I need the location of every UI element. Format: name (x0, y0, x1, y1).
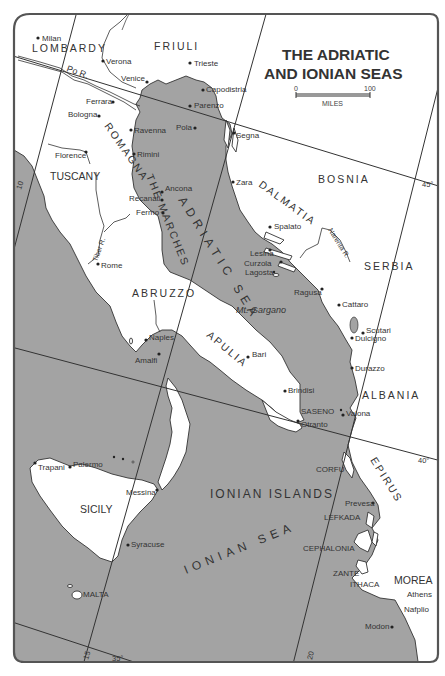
city-syracuse: Syracuse (126, 540, 164, 549)
city-ragusa: Ragusa (294, 287, 324, 297)
city-bologna: Bologna (68, 110, 101, 119)
svg-text:Parenzo: Parenzo (194, 101, 224, 110)
city-prevesa: Prevesa (345, 499, 375, 508)
city-otranto: Otranto (296, 419, 328, 429)
aeolian-island (132, 461, 134, 463)
svg-text:Trapani: Trapani (38, 463, 65, 472)
region-friuli: FRIULI (154, 40, 199, 52)
svg-text:Segna: Segna (236, 131, 260, 140)
svg-text:Trieste: Trieste (194, 59, 219, 68)
city-ancona: Ancona (160, 184, 192, 194)
svg-text:Pola: Pola (176, 123, 193, 132)
sea-ionian-islands: IONIAN ISLANDS (210, 487, 334, 501)
city-parenzo: Parenzo (188, 101, 224, 110)
svg-text:Ferrara: Ferrara (86, 97, 113, 106)
svg-text:CEPHALONIA: CEPHALONIA (303, 544, 355, 553)
adriatic-ionian-map: THE ADRIATIC AND IONIAN SEAS 0 100 MILES… (0, 0, 445, 676)
map-title-line2: AND IONIAN SEAS (264, 65, 403, 82)
island-zante-label: ZANTE (333, 569, 359, 578)
city-rimini: Rimini (132, 150, 159, 159)
city-lesina: Lesina (250, 248, 274, 258)
label-lat-40: 40° (418, 456, 429, 465)
svg-text:ITHACA: ITHACA (350, 580, 380, 589)
svg-text:Valona: Valona (346, 409, 371, 418)
svg-text:Syracuse: Syracuse (131, 540, 165, 549)
svg-text:LEFKADA: LEFKADA (324, 513, 361, 522)
region-lombardy: LOMBARDY (32, 42, 107, 54)
city-recanati: Recanati (129, 194, 164, 203)
svg-text:SASENO: SASENO (301, 407, 334, 416)
svg-text:MALTA: MALTA (83, 590, 109, 599)
svg-text:Verona: Verona (106, 57, 132, 66)
svg-text:Capodistria: Capodistria (206, 85, 247, 94)
svg-text:Venice: Venice (121, 74, 146, 83)
label-lat-45: 45° (422, 180, 433, 189)
label-lat-35: 35° (112, 654, 123, 663)
svg-text:Dulcigno: Dulcigno (355, 334, 387, 343)
svg-text:Naples: Naples (149, 333, 174, 342)
city-durazzo: Durazzo (350, 364, 385, 373)
city-messina: Messina (126, 488, 159, 497)
svg-text:Amalfi: Amalfi (135, 356, 157, 365)
city-valona: Valona (341, 409, 370, 418)
region-sicily: SICILY (80, 503, 112, 515)
city-spalato: Spalato (268, 222, 301, 231)
region-albania: ALBANIA (362, 389, 420, 401)
city-palermo: Palermo (68, 460, 103, 469)
island-ithaca-label: ITHACA (350, 580, 380, 589)
svg-text:Ancona: Ancona (165, 184, 193, 193)
island-malta-label: MALTA (83, 590, 109, 599)
svg-text:CORFU: CORFU (316, 465, 345, 474)
svg-text:Bari: Bari (252, 350, 266, 359)
map-title-line1: THE ADRIATIC (282, 46, 390, 63)
city-verona: Verona (101, 57, 132, 66)
svg-text:ZANTE: ZANTE (333, 569, 359, 578)
svg-text:Spalato: Spalato (274, 222, 302, 231)
svg-text:Milan: Milan (42, 34, 61, 43)
city-florence: Florence (55, 150, 88, 160)
svg-text:Durazzo: Durazzo (355, 364, 385, 373)
label-mt-gargano: Mt. Gargano (236, 305, 286, 315)
svg-text:Fermo: Fermo (136, 208, 160, 217)
region-abruzzo: ABRUZZO (132, 287, 196, 299)
region-serbia: SERBIA (364, 260, 415, 272)
city-segna: Segna (232, 131, 259, 140)
island-lagosta (273, 274, 279, 277)
svg-text:Lagosta: Lagosta (245, 268, 274, 277)
svg-text:Prevesa: Prevesa (345, 499, 375, 508)
svg-text:Bologna: Bologna (68, 110, 98, 119)
svg-text:Otranto: Otranto (301, 420, 328, 429)
svg-text:Modon: Modon (365, 622, 389, 631)
aeolian-island (113, 456, 115, 458)
scale-unit: MILES (322, 100, 343, 107)
svg-text:Ravenna: Ravenna (134, 126, 167, 135)
svg-text:Brindisi: Brindisi (288, 386, 314, 395)
svg-text:Messina: Messina (126, 488, 156, 497)
aeolian-island (122, 458, 124, 460)
svg-text:Cattaro: Cattaro (342, 300, 369, 309)
scale-start: 0 (294, 85, 298, 92)
region-morea: MOREA (394, 574, 433, 586)
city-cattaro: Cattaro (337, 300, 368, 309)
svg-text:Florence: Florence (55, 151, 87, 160)
svg-text:Lesina: Lesina (250, 249, 274, 258)
city-ferrara: Ferrara (86, 97, 115, 106)
city-capodistria: Capodistria (201, 85, 247, 94)
city-naples: Naples (144, 333, 174, 342)
land-malta (72, 591, 82, 599)
city-athens: Athens (407, 590, 432, 599)
svg-text:Curzola: Curzola (244, 259, 272, 268)
svg-text:Rimini: Rimini (137, 150, 159, 159)
city-rome: Rome (96, 261, 122, 270)
city-modon: Modon (365, 622, 394, 631)
svg-text:Ragusa: Ragusa (294, 288, 322, 297)
lake-scutari (350, 317, 358, 333)
region-tuscany: TUSCANY (50, 170, 100, 182)
scale-end: 100 (364, 85, 376, 92)
svg-text:Rome: Rome (101, 261, 123, 270)
city-lagosta: Lagosta (245, 268, 275, 277)
island-corfu-label: CORFU (316, 465, 345, 474)
island-ischia (130, 338, 133, 344)
svg-text:Recanati: Recanati (129, 194, 161, 203)
city-ravenna: Ravenna (129, 126, 166, 135)
